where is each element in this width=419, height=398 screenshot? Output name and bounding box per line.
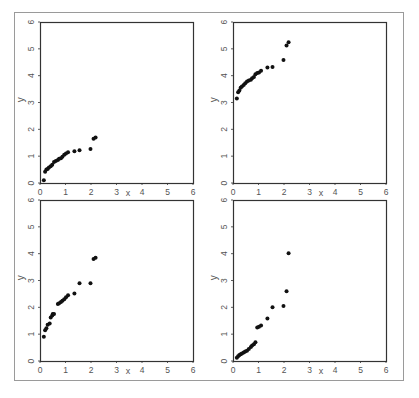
y-axis-label: y xyxy=(15,275,26,280)
y-tick-label: 2 xyxy=(219,127,229,132)
y-tick-label: 0 xyxy=(219,180,229,185)
x-tick-label: 2 xyxy=(89,365,94,375)
data-point xyxy=(44,326,48,330)
x-tick-label: 1 xyxy=(63,365,68,375)
data-point xyxy=(271,65,275,69)
y-tick-label: 0 xyxy=(26,180,36,185)
data-point xyxy=(265,317,269,321)
panel-top-left: 0123456x0123456y xyxy=(15,19,196,198)
y-tick-label: 1 xyxy=(219,332,229,337)
y-axis-label: y xyxy=(208,275,219,280)
x-tick-label: 2 xyxy=(89,187,94,197)
y-tick-label: 2 xyxy=(26,305,36,310)
data-point xyxy=(281,304,285,308)
data-point xyxy=(72,149,76,153)
x-tick-label: 1 xyxy=(256,365,261,375)
data-point xyxy=(66,293,70,297)
y-tick-label: 4 xyxy=(219,251,229,256)
y-tick-label: 3 xyxy=(26,278,36,283)
y-tick-label: 0 xyxy=(219,358,229,363)
y-tick-label: 3 xyxy=(26,100,36,105)
x-axis-label: x xyxy=(319,188,324,198)
y-tick-label: 3 xyxy=(219,100,229,105)
x-tick-label: 5 xyxy=(165,365,170,375)
data-point xyxy=(259,324,263,328)
x-tick-label: 1 xyxy=(63,187,68,197)
y-tick-label: 4 xyxy=(219,73,229,78)
data-point xyxy=(78,281,82,285)
plot-area xyxy=(41,23,194,184)
x-tick-label: 5 xyxy=(165,187,170,197)
x-tick-label: 6 xyxy=(384,365,389,375)
data-point xyxy=(285,44,289,48)
y-axis-label: y xyxy=(208,97,219,102)
data-point xyxy=(42,178,46,182)
x-tick-label: 6 xyxy=(191,187,196,197)
y-tick-label: 6 xyxy=(26,197,36,202)
y-axis-label: y xyxy=(15,97,26,102)
data-point xyxy=(259,69,263,73)
data-point xyxy=(281,58,285,62)
y-tick-label: 2 xyxy=(26,127,36,132)
y-tick-label: 1 xyxy=(26,154,36,159)
x-tick-label: 4 xyxy=(333,365,338,375)
x-tick-label: 4 xyxy=(140,365,145,375)
data-point xyxy=(94,135,98,139)
data-point xyxy=(66,150,70,154)
y-tick-label: 6 xyxy=(219,197,229,202)
x-tick-label: 2 xyxy=(282,187,287,197)
y-tick-label: 3 xyxy=(219,278,229,283)
data-point xyxy=(72,291,76,295)
x-tick-label: 1 xyxy=(256,187,261,197)
x-tick-label: 3 xyxy=(114,365,119,375)
data-point xyxy=(42,335,46,339)
data-point xyxy=(235,96,239,100)
x-tick-label: 4 xyxy=(140,187,145,197)
x-tick-label: 4 xyxy=(333,187,338,197)
x-axis-label: x xyxy=(319,366,324,376)
x-tick-label: 3 xyxy=(114,187,119,197)
data-point xyxy=(48,321,52,325)
scatter-figure: 0123456x0123456y 0123456x0123456y 012345… xyxy=(0,0,419,398)
data-point xyxy=(271,305,275,309)
x-axis-label: x xyxy=(126,188,131,198)
data-point xyxy=(78,148,82,152)
outer-frame xyxy=(15,13,404,381)
data-point xyxy=(94,256,98,260)
x-axis-label: x xyxy=(126,366,131,376)
x-tick-label: 0 xyxy=(231,187,236,197)
data-point xyxy=(285,289,289,293)
x-tick-label: 0 xyxy=(231,365,236,375)
plot-area xyxy=(234,201,387,362)
panel-top-right: 0123456x0123456y xyxy=(208,19,389,198)
y-tick-label: 4 xyxy=(26,73,36,78)
x-tick-label: 3 xyxy=(307,187,312,197)
y-tick-label: 0 xyxy=(26,358,36,363)
y-tick-label: 6 xyxy=(26,19,36,24)
y-tick-label: 2 xyxy=(219,305,229,310)
plot-area xyxy=(234,23,387,184)
x-tick-label: 3 xyxy=(307,365,312,375)
y-tick-label: 5 xyxy=(219,224,229,229)
data-point xyxy=(287,40,291,44)
x-tick-label: 0 xyxy=(38,187,43,197)
panel-bottom-right: 0123456x0123456y xyxy=(208,197,389,376)
data-point xyxy=(265,66,269,70)
y-tick-label: 1 xyxy=(26,332,36,337)
y-tick-label: 6 xyxy=(219,19,229,24)
data-point xyxy=(52,312,56,316)
x-tick-label: 6 xyxy=(191,365,196,375)
plot-area xyxy=(41,201,194,362)
panel-bottom-left: 0123456x0123456y xyxy=(15,197,196,376)
y-tick-label: 5 xyxy=(219,46,229,51)
y-tick-label: 4 xyxy=(26,251,36,256)
data-point xyxy=(287,251,291,255)
x-tick-label: 0 xyxy=(38,365,43,375)
data-point xyxy=(88,281,92,285)
y-tick-label: 1 xyxy=(219,154,229,159)
x-tick-label: 5 xyxy=(358,187,363,197)
y-tick-label: 5 xyxy=(26,224,36,229)
data-point xyxy=(88,147,92,151)
x-tick-label: 2 xyxy=(282,365,287,375)
data-point xyxy=(253,340,257,344)
